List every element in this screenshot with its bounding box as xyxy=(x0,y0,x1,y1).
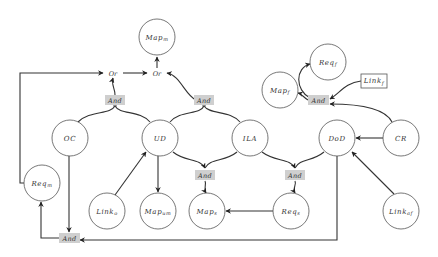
svg-text:DoD: DoD xyxy=(327,135,345,143)
edge-ila-and3 xyxy=(205,152,237,168)
svg-text:ILA: ILA xyxy=(242,135,257,143)
edge-andf-reqf xyxy=(299,64,310,98)
gate-or-left: Or xyxy=(109,70,118,78)
svg-text:OC: OC xyxy=(64,135,76,143)
edge-linko-ud xyxy=(115,152,146,195)
edge-oc-and xyxy=(78,106,115,122)
edge-linkaf-dod xyxy=(352,152,394,194)
node-map-um: Mapum xyxy=(140,193,176,229)
gate-and-ila-dod: And xyxy=(285,170,305,180)
svg-text:Or: Or xyxy=(153,70,162,78)
edge-and4-reqs xyxy=(294,181,295,193)
svg-text:And: And xyxy=(61,235,76,243)
edge-and3-maps xyxy=(205,181,206,193)
node-cr: CR xyxy=(383,120,419,156)
node-oc: OC xyxy=(52,120,88,156)
edge-dod-and4 xyxy=(295,152,324,168)
edge-ud-and3 xyxy=(173,152,205,168)
nodes: Mapm OC UD ILA DoD CR Reqm Linko xyxy=(24,19,419,229)
node-ila: ILA xyxy=(232,120,268,156)
svg-text:And: And xyxy=(196,97,211,105)
edge-cr-andf xyxy=(330,104,392,122)
svg-text:UD: UD xyxy=(154,135,167,143)
node-link-af: Linkaf xyxy=(383,193,419,229)
node-req-m: Reqm xyxy=(24,165,60,201)
svg-text:And: And xyxy=(107,97,122,105)
node-link-o: Linko xyxy=(89,193,125,229)
goal-graph: Mapm OC UD ILA DoD CR Reqm Linko xyxy=(0,0,438,257)
gate-and-ud-ila-top: And xyxy=(194,95,214,105)
diagram-canvas: Mapm OC UD ILA DoD CR Reqm Linko xyxy=(0,0,438,257)
edge-andf-mapf xyxy=(298,93,308,100)
node-ud: UD xyxy=(142,120,178,156)
gate-or-right: Or xyxy=(153,70,162,78)
edge-andbottom-reqm xyxy=(41,202,59,238)
gate-and-bottom: And xyxy=(59,233,80,243)
node-link-f: Linkf xyxy=(361,74,387,88)
gate-and-f: And xyxy=(308,95,329,105)
node-dod: DoD xyxy=(319,120,355,156)
svg-text:Or: Or xyxy=(109,70,118,78)
node-map-m: Mapm xyxy=(139,19,175,55)
edge-linkf-andf xyxy=(330,81,361,99)
svg-text:And: And xyxy=(287,172,302,180)
node-map-f: Mapf xyxy=(262,72,298,108)
node-map-s: Maps xyxy=(189,193,225,229)
edge-ila-and4 xyxy=(262,152,295,168)
svg-text:CR: CR xyxy=(395,135,407,143)
svg-text:And: And xyxy=(310,97,325,105)
node-req-s: Reqs xyxy=(273,193,309,229)
node-req-f: Reqf xyxy=(310,44,346,80)
gate-and-oc-ud: And xyxy=(105,95,125,105)
edge-ud-and2 xyxy=(170,106,204,122)
edge-and2-orright xyxy=(167,73,196,100)
edge-ila-and2 xyxy=(204,106,240,122)
svg-text:And: And xyxy=(197,172,212,180)
edge-and-orleft xyxy=(112,78,115,95)
gate-and-ud-ila-bottom: And xyxy=(195,170,215,180)
svg-text:Maps: Maps xyxy=(196,208,218,217)
edge-ud-and xyxy=(115,106,150,122)
